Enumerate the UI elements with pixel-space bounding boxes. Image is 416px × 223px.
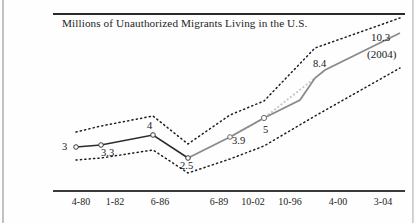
figure-page: Millions of Unauthorized Migrants Living…: [0, 0, 416, 223]
chart-figure: Millions of Unauthorized Migrants Living…: [0, 0, 416, 223]
axis-tick-1-82: 1-82: [106, 196, 124, 207]
axis-tick-4-00: 4-00: [329, 196, 347, 207]
point-label-2002: 3.9: [232, 135, 245, 146]
series-upper-bound-line: [76, 18, 400, 144]
axis-tick-3-04: 3-04: [374, 196, 392, 207]
point-label-1996: 5: [263, 124, 268, 135]
end-year-label: (2004): [367, 48, 396, 60]
data-point-marker: [74, 145, 79, 150]
axis-tick-10-96: 10-96: [278, 196, 301, 207]
series-ghost-line: [230, 78, 315, 137]
axis-tick-4-80: 4-80: [72, 196, 90, 207]
axis-tick-10-02: 10-02: [241, 196, 264, 207]
point-label-1982: 3.3: [101, 147, 114, 158]
point-label-1986: 4: [147, 120, 152, 131]
point-label-1989: 2.5: [180, 160, 193, 171]
axis-tick-6-86: 6-86: [151, 196, 169, 207]
axis-tick-6-89: 6-89: [210, 196, 228, 207]
end-value-label: 10.3: [371, 31, 390, 43]
point-label-1980: 3: [62, 141, 67, 152]
point-label-2000: 8.4: [313, 58, 326, 69]
data-point-marker: [261, 115, 266, 120]
data-point-marker: [151, 133, 156, 138]
axis-rule: [53, 190, 405, 192]
series-lower-bound-line: [76, 68, 400, 173]
series-estimate-line-dark: [76, 135, 188, 158]
